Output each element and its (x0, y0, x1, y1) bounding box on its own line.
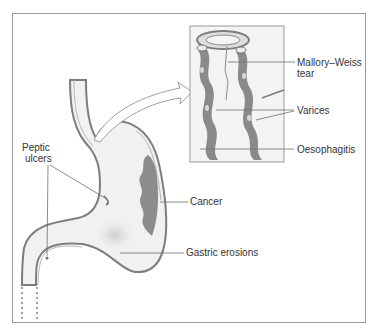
label-text: Mallory–Weiss (297, 57, 362, 68)
label-gastric-erosions: Gastric erosions (186, 247, 258, 258)
label-mallory-weiss: Mallory–Weiss tear (297, 57, 362, 79)
label-peptic-ulcers: Peptic ulcers (22, 142, 52, 164)
label-oesophagitis: Oesophagitis (297, 144, 355, 155)
label-varices: Varices (297, 105, 330, 116)
label-text: ulcers (22, 153, 52, 164)
stomach-diagram (0, 0, 379, 335)
stomach (22, 80, 166, 320)
label-cancer: Cancer (190, 196, 222, 207)
label-text: Peptic (22, 142, 52, 153)
oesophagus-inset (190, 26, 284, 162)
erosion-region (93, 217, 137, 253)
label-text: tear (297, 68, 362, 79)
